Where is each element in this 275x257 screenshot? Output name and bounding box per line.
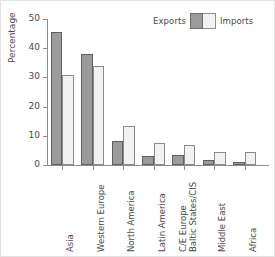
x-tick-mark	[123, 166, 124, 170]
bar-group	[233, 19, 256, 165]
plot-area	[48, 19, 261, 165]
y-tick-mark	[43, 107, 47, 108]
bar-exports	[233, 162, 245, 166]
bar-group	[51, 19, 74, 165]
x-tick-mark	[62, 166, 63, 170]
x-tick-mark	[154, 166, 155, 170]
bar-imports	[245, 152, 257, 165]
y-tick-mark	[43, 77, 47, 78]
bar-imports	[123, 126, 135, 165]
bar-imports	[154, 143, 166, 165]
x-axis-label: Latin America	[158, 193, 168, 252]
y-tick-mark	[43, 136, 47, 137]
y-tick-mark	[43, 165, 47, 166]
bar-exports	[142, 156, 154, 165]
x-axis-label-line: Asia	[66, 234, 76, 252]
bar-imports	[214, 152, 226, 165]
y-axis-title: Percentage	[7, 12, 17, 63]
y-tick-mark	[43, 19, 47, 20]
x-axis-label-line: Western Europe	[97, 185, 107, 252]
bar-imports	[62, 75, 74, 165]
x-axis-label-line: Middle East	[218, 203, 228, 252]
y-tick-label: 50	[29, 13, 40, 23]
bar-imports	[93, 66, 105, 165]
x-axis-label-line: Latin America	[158, 193, 168, 252]
y-tick-label: 30	[29, 71, 40, 81]
x-axis-label-line: North America	[127, 190, 137, 252]
bar-group	[142, 19, 165, 165]
x-axis-label-line: Africa	[249, 228, 259, 252]
bar-group	[81, 19, 104, 165]
x-axis-label-line: C/E Europe	[179, 182, 189, 252]
bar-group	[172, 19, 195, 165]
x-axis-label: Africa	[249, 228, 259, 252]
x-axis-label-line: Baltic States/CIS	[188, 182, 198, 252]
y-tick-label: 0	[34, 159, 40, 169]
y-tick-label: 20	[29, 101, 40, 111]
x-axis-label: C/E EuropeBaltic States/CIS	[179, 182, 198, 252]
x-tick-mark	[245, 166, 246, 170]
bar-imports	[184, 145, 196, 165]
bar-exports	[172, 155, 184, 165]
y-tick-label: 40	[29, 42, 40, 52]
bar-exports	[112, 141, 124, 165]
x-tick-mark	[93, 166, 94, 170]
bar-exports	[51, 32, 63, 165]
y-tick-label: 10	[29, 130, 40, 140]
x-axis-label: Western Europe	[97, 185, 107, 252]
y-tick-mark	[43, 48, 47, 49]
x-axis-label: Asia	[66, 234, 76, 252]
bar-group	[203, 19, 226, 165]
bar-group	[112, 19, 135, 165]
bar-chart-figure: Exports Imports Percentage 01020304050 A…	[0, 0, 275, 257]
bar-exports	[203, 160, 215, 165]
x-tick-mark	[214, 166, 215, 170]
x-axis-label: North America	[127, 190, 137, 252]
bar-exports	[81, 54, 93, 165]
x-axis-line	[47, 165, 269, 166]
x-axis-label: Middle East	[218, 203, 228, 252]
x-tick-mark	[184, 166, 185, 170]
